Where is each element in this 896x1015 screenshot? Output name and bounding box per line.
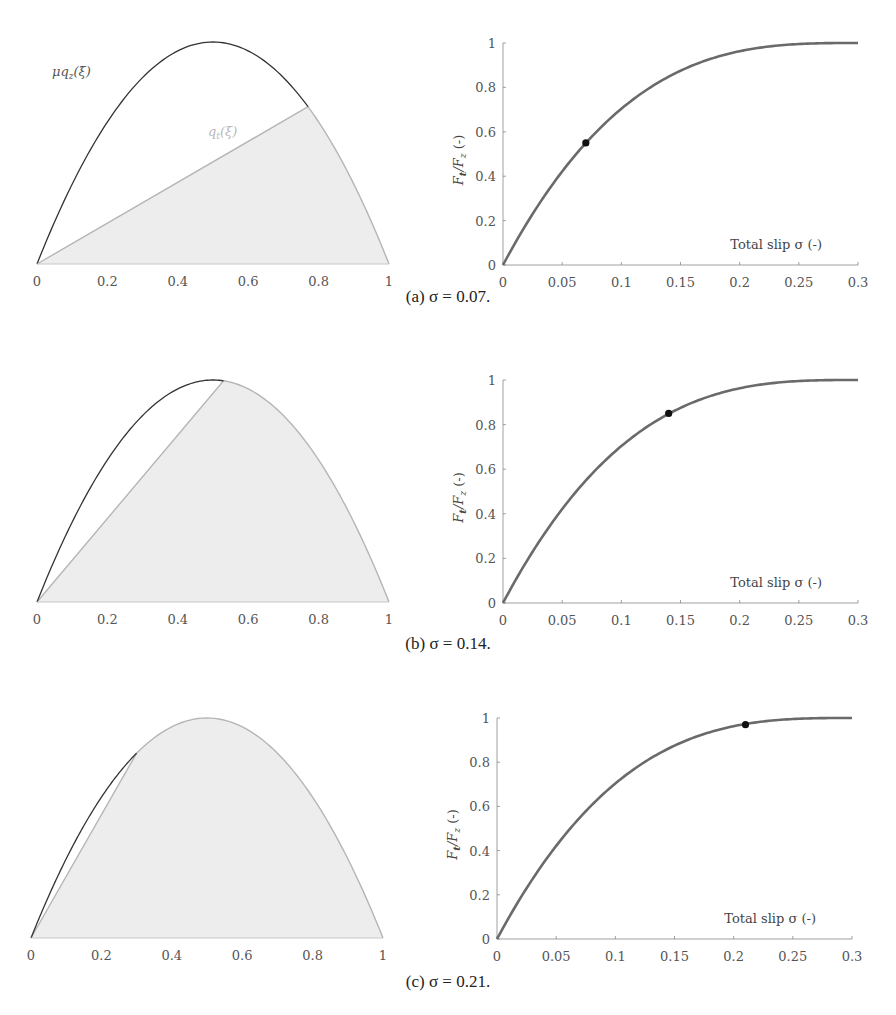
x-tick-label: 1 <box>379 948 387 963</box>
pressure-plot-c: 00.20.40.60.81 <box>27 718 387 963</box>
x-tick-label: 0.15 <box>660 949 689 964</box>
caption-a: (a) σ = 0.07. <box>0 287 896 307</box>
operating-point-marker <box>742 721 749 728</box>
x-tick-label: 1 <box>385 612 393 627</box>
qt-label: qt(ξ) <box>208 124 237 141</box>
x-tick-label: 0.4 <box>161 948 182 963</box>
force-curve <box>503 43 858 265</box>
x-tick-label: 0.1 <box>605 949 626 964</box>
y-tick-label: 0.2 <box>475 551 496 566</box>
x-tick-label: 0.6 <box>232 948 253 963</box>
force-curve <box>497 718 852 939</box>
y-tick-label: 0 <box>488 596 496 611</box>
x-tick-label: 0.2 <box>91 948 112 963</box>
x-tick-label: 0.2 <box>729 613 750 628</box>
caption-b: (b) σ = 0.14. <box>0 634 896 654</box>
y-tick-label: 0.6 <box>475 125 496 140</box>
y-tick-label: 0 <box>488 258 496 273</box>
x-tick-label: 0.25 <box>784 613 813 628</box>
adhesion-fill-area <box>37 381 389 602</box>
y-tick-label: 0.4 <box>469 844 490 859</box>
x-tick-label: 0.3 <box>848 613 869 628</box>
x-tick-label: 0.3 <box>842 949 863 964</box>
force-slip-plot-b: 00.050.10.150.20.250.300.20.40.60.81Tota… <box>451 373 868 628</box>
x-tick-label: 0 <box>27 948 35 963</box>
panel-a: 00.20.40.60.81μqz(ξ̄)qt(ξ)00.050.10.150.… <box>33 36 868 290</box>
x-tick-label: 0.6 <box>238 612 259 627</box>
operating-point-marker <box>665 410 672 417</box>
x-tick-label: 0.4 <box>167 612 188 627</box>
y-tick-label: 0.8 <box>469 755 490 770</box>
mu-qz-label: μqz(ξ̄) <box>52 64 91 81</box>
y-tick-label: 1 <box>482 711 490 726</box>
panel-c: 00.20.40.60.8100.050.10.150.20.250.300.2… <box>27 711 862 964</box>
pressure-plot-a: 00.20.40.60.81μqz(ξ̄)qt(ξ) <box>33 42 393 289</box>
operating-point-marker <box>582 139 589 146</box>
x-tick-label: 0.2 <box>97 612 118 627</box>
x-tick-label: 0.25 <box>778 949 807 964</box>
x-tick-label: 0.1 <box>611 613 632 628</box>
force-slip-plot-a: 00.050.10.150.20.250.300.20.40.60.81Tota… <box>451 36 868 290</box>
x-tick-label: 0.8 <box>302 948 323 963</box>
adhesion-fill-area <box>31 718 383 938</box>
x-tick-label: 0.15 <box>666 613 695 628</box>
y-axis-label: Ft/Fz (-) <box>445 809 462 860</box>
y-tick-label: 0.2 <box>475 214 496 229</box>
x-tick-label: 0 <box>33 612 41 627</box>
y-tick-label: 0.6 <box>469 799 490 814</box>
x-tick-label: 0.2 <box>723 949 744 964</box>
x-tick-label: 0.8 <box>308 612 329 627</box>
x-axis-label: Total slip σ (-) <box>730 237 822 252</box>
x-tick-label: 0 <box>499 613 507 628</box>
y-tick-label: 0.4 <box>475 507 496 522</box>
figure-canvas: 00.20.40.60.81μqz(ξ̄)qt(ξ)00.050.10.150.… <box>0 0 896 1015</box>
force-slip-plot-c: 00.050.10.150.20.250.300.20.40.60.81Tota… <box>445 711 862 964</box>
y-tick-label: 0 <box>482 932 490 947</box>
panel-b: 00.20.40.60.8100.050.10.150.20.250.300.2… <box>33 373 868 628</box>
y-tick-label: 0.8 <box>475 418 496 433</box>
y-tick-label: 0.4 <box>475 169 496 184</box>
y-axis-label: Ft/Fz (-) <box>451 472 468 523</box>
x-tick-label: 0.05 <box>542 949 571 964</box>
y-tick-label: 0.6 <box>475 462 496 477</box>
x-tick-label: 0.05 <box>548 613 577 628</box>
x-axis-label: Total slip σ (-) <box>730 575 822 590</box>
y-tick-label: 1 <box>488 373 496 388</box>
x-tick-label: 0 <box>493 949 501 964</box>
y-tick-label: 0.2 <box>469 888 490 903</box>
force-curve <box>503 380 858 603</box>
y-axis-label: Ft/Fz (-) <box>451 135 468 186</box>
pressure-plot-b: 00.20.40.60.81 <box>33 380 393 627</box>
x-axis-label: Total slip σ (-) <box>724 911 816 926</box>
caption-c: (c) σ = 0.21. <box>0 972 896 992</box>
y-tick-label: 1 <box>488 36 496 51</box>
y-tick-label: 0.8 <box>475 80 496 95</box>
